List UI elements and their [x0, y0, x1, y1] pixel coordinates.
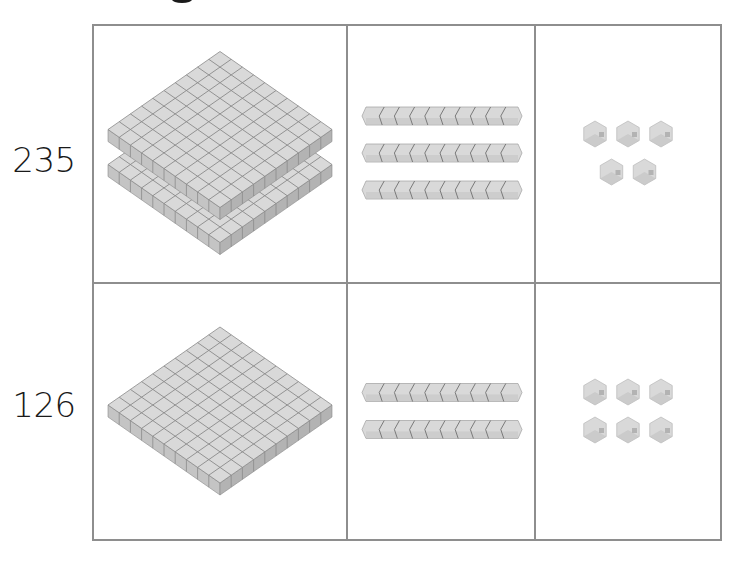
hundred-flat-icon-r2-1 [108, 327, 332, 495]
ten-rod-icon-r1-2 [362, 144, 522, 162]
unit-cube-icon-r2-1 [584, 379, 607, 405]
unit-cube-icon-r2-5 [617, 417, 640, 443]
unit-cube-icon-r1-3 [650, 121, 673, 147]
ten-rod-icon-r2-2 [362, 421, 522, 439]
unit-cube-icon-r1-5 [633, 159, 656, 185]
ten-rod-icon-r1-3 [362, 181, 522, 199]
unit-cube-icon-r1-2 [617, 121, 640, 147]
unit-cube-icon-r2-3 [650, 379, 673, 405]
unit-cube-icon-r2-2 [617, 379, 640, 405]
ten-rod-icon-r1-1 [362, 107, 522, 125]
unit-cube-icon-r2-6 [650, 417, 673, 443]
unit-cube-icon-r1-1 [584, 121, 607, 147]
base-ten-blocks-layer [0, 0, 742, 565]
ten-rod-icon-r2-1 [362, 384, 522, 402]
unit-cube-icon-r2-4 [584, 417, 607, 443]
unit-cube-icon-r1-4 [600, 159, 623, 185]
